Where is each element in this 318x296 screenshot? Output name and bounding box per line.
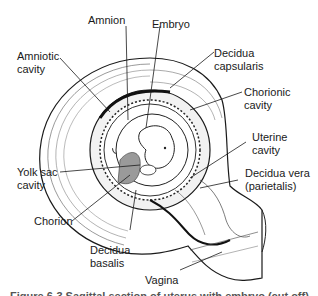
label-chorionic-cavity-line2: cavity (244, 99, 272, 111)
label-amniotic-cavity-line1: Amniotic (17, 50, 59, 62)
label-decidua-capsularis-line2: capsularis (214, 60, 264, 72)
label-decidua-basalis-line1: Decidua (90, 244, 130, 256)
label-uterine-cavity-line2: cavity (252, 144, 280, 156)
label-yolk-sac-cavity-line1: Yolk sac (17, 166, 58, 178)
diagram: Amnion Embryo Amniotic cavity Decidua ca… (0, 0, 318, 296)
label-yolk-sac-cavity-line2: cavity (17, 179, 45, 191)
label-decidua-capsularis-line1: Decidua (214, 47, 254, 59)
label-amniotic-cavity-line2: cavity (17, 63, 45, 75)
figure-caption: Figure 6-3 Sagittal section of uterus wi… (10, 289, 309, 296)
label-chorion: Chorion (34, 215, 73, 227)
label-chorionic-cavity-line1: Chorionic (244, 86, 290, 98)
label-vagina: Vagina (145, 274, 178, 286)
label-decidua-vera-line1: Decidua vera (245, 167, 310, 179)
label-amnion: Amnion (88, 14, 125, 26)
label-embryo: Embryo (152, 18, 190, 30)
label-decidua-vera-line2: (parietalis) (245, 180, 296, 192)
label-uterine-cavity-line1: Uterine (252, 131, 287, 143)
label-decidua-basalis-line2: basalis (90, 257, 124, 269)
yolk-sac (140, 165, 156, 175)
